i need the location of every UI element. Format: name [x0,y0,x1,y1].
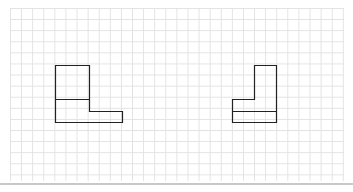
left-view [56,66,123,123]
bottom-divider [0,183,353,185]
right-view [233,66,277,123]
left-view-outline [56,66,123,123]
diagram-canvas [0,0,353,192]
right-view-outline [233,66,277,123]
